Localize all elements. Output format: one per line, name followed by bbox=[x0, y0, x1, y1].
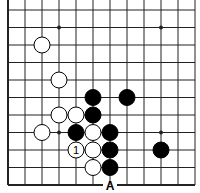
black-stone bbox=[102, 160, 118, 176]
star-point bbox=[57, 26, 61, 30]
point-labels: A bbox=[106, 179, 115, 193]
white-stone-shape bbox=[85, 142, 101, 158]
white-stone-shape bbox=[68, 107, 84, 123]
black-stone bbox=[85, 90, 101, 106]
white-stone-shape bbox=[34, 37, 50, 53]
white-stone bbox=[51, 107, 67, 123]
black-stone-shape bbox=[102, 142, 118, 158]
black-stone-shape bbox=[102, 125, 118, 141]
black-stone bbox=[102, 142, 118, 158]
white-stone-shape bbox=[51, 72, 67, 88]
star-point bbox=[57, 131, 61, 135]
white-stone bbox=[34, 37, 50, 53]
white-stone-shape bbox=[51, 107, 67, 123]
star-point bbox=[159, 131, 163, 135]
white-stone bbox=[85, 142, 101, 158]
white-stone-shape bbox=[34, 125, 50, 141]
black-stone-shape bbox=[85, 90, 101, 106]
black-stone-shape bbox=[153, 142, 169, 158]
black-stone bbox=[85, 107, 101, 123]
white-stone bbox=[85, 125, 101, 141]
point-label: A bbox=[106, 179, 115, 193]
white-stone bbox=[34, 125, 50, 141]
move-number-label: 1 bbox=[73, 144, 79, 156]
black-stone bbox=[119, 90, 135, 106]
white-stone-shape bbox=[85, 125, 101, 141]
stones: 1 bbox=[34, 37, 169, 176]
star-point bbox=[159, 26, 163, 30]
black-stone bbox=[68, 125, 84, 141]
white-stone bbox=[68, 107, 84, 123]
white-stone bbox=[51, 72, 67, 88]
black-stone-shape bbox=[119, 90, 135, 106]
white-stone bbox=[85, 160, 101, 176]
black-stone bbox=[153, 142, 169, 158]
white-stone: 1 bbox=[68, 142, 84, 158]
black-stone-shape bbox=[85, 107, 101, 123]
white-stone-shape bbox=[85, 160, 101, 176]
black-stone bbox=[102, 125, 118, 141]
black-stone-shape bbox=[102, 160, 118, 176]
black-stone-shape bbox=[68, 125, 84, 141]
go-board: 1 A bbox=[0, 0, 200, 193]
grid-lines bbox=[8, 0, 195, 185]
